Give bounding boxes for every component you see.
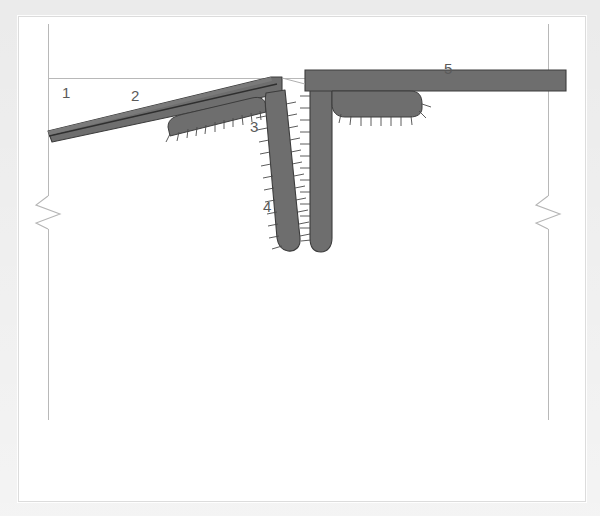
horizontal-panel-haunch xyxy=(332,91,422,117)
horizontal-panel-body xyxy=(305,70,566,91)
horizontal-panel xyxy=(305,70,566,91)
right-fin xyxy=(310,85,332,252)
figure-root: 1 2 3 4 5 xyxy=(0,0,600,516)
break-left-zigzag xyxy=(36,196,60,229)
break-right-zigzag xyxy=(536,196,560,229)
callout-4: 4 xyxy=(263,199,272,214)
haunch-body xyxy=(332,91,422,117)
callout-5: 5 xyxy=(444,61,453,76)
cross-section-drawing xyxy=(0,0,600,516)
callout-1: 1 xyxy=(62,85,71,100)
right-fin-hatching-left xyxy=(300,96,311,241)
leader-lines xyxy=(282,78,305,84)
callout-3: 3 xyxy=(250,119,259,134)
callout-2: 2 xyxy=(131,88,140,103)
leader-to-junction xyxy=(282,78,305,84)
right-fin-body xyxy=(310,85,332,252)
